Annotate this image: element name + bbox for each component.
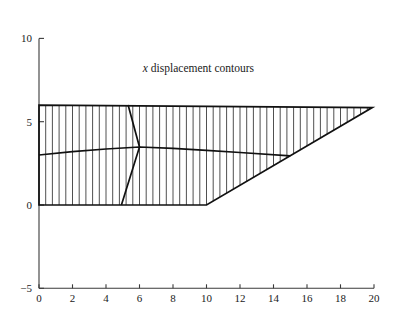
x-tick-label-10: 10 [201,292,213,304]
contour-v-shape [121,105,139,205]
x-tick-label-20: 20 [369,292,381,304]
y-tick-label--5: −5 [20,282,32,294]
contour-horizontal [39,147,290,156]
y-axis-tick-labels: −50510 [20,32,32,294]
x-tick-label-18: 18 [335,292,347,304]
x-axis-tick-labels: 02468101214161820 [36,292,380,304]
displacement-contours [39,105,290,205]
x-tick-label-12: 12 [235,292,246,304]
x-tick-label-14: 14 [268,292,280,304]
x-tick-label-8: 8 [170,292,176,304]
y-tick-label-10: 10 [21,32,33,44]
figure-container: 02468101214161820 −50510 x displacement … [0,0,395,330]
x-axis-ticks [39,284,374,288]
y-tick-label-5: 5 [27,116,33,128]
contour-plot: 02468101214161820 −50510 x displacement … [0,0,395,330]
x-tick-label-6: 6 [137,292,143,304]
x-tick-label-0: 0 [36,292,42,304]
x-tick-label-16: 16 [302,292,314,304]
wedge-domain-outline [39,105,372,205]
mesh-hatching [46,38,368,288]
y-tick-label-0: 0 [27,199,33,211]
x-tick-label-2: 2 [70,292,76,304]
x-tick-label-4: 4 [103,292,109,304]
plot-title-label: x displacement contours [142,62,255,75]
